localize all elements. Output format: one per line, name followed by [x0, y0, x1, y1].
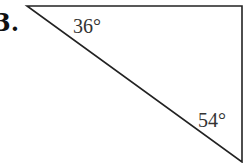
triangle-diagram: 36° 54°	[0, 0, 248, 163]
angle-label-bottom-right: 54°	[198, 109, 226, 131]
right-triangle	[27, 6, 242, 162]
angle-label-top-left: 36°	[73, 15, 101, 37]
